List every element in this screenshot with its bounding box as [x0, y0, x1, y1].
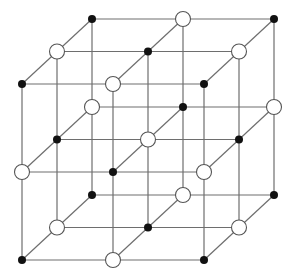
filled-atom-icon: [18, 80, 26, 88]
hollow-atom-icon: [232, 44, 247, 59]
filled-atom-icon: [18, 256, 26, 264]
filled-atom-icon: [235, 136, 243, 144]
hollow-atom-icon: [176, 12, 191, 27]
filled-atom-icon: [88, 15, 96, 23]
filled-atom-icon: [109, 168, 117, 176]
hollow-atom-icon: [15, 165, 30, 180]
lattice-svg: [0, 0, 290, 278]
filled-atom-icon: [53, 136, 61, 144]
hollow-atom-icon: [232, 220, 247, 235]
hollow-atom-icon: [176, 188, 191, 203]
filled-atom-icon: [200, 80, 208, 88]
filled-atom-icon: [200, 256, 208, 264]
filled-atom-icon: [88, 191, 96, 199]
hollow-atom-icon: [50, 220, 65, 235]
hollow-atom-icon: [106, 77, 121, 92]
hollow-atom-icon: [197, 165, 212, 180]
lattice-atoms: [15, 12, 282, 268]
filled-atom-icon: [270, 15, 278, 23]
hollow-atom-icon: [106, 253, 121, 268]
filled-atom-icon: [270, 191, 278, 199]
hollow-atom-icon: [141, 132, 156, 147]
hollow-atom-icon: [267, 100, 282, 115]
hollow-atom-icon: [85, 100, 100, 115]
filled-atom-icon: [144, 48, 152, 56]
crystal-lattice-diagram: [0, 0, 290, 278]
hollow-atom-icon: [50, 44, 65, 59]
filled-atom-icon: [179, 103, 187, 111]
filled-atom-icon: [144, 224, 152, 232]
